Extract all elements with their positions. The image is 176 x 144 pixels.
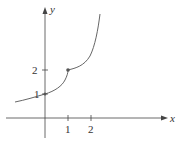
chart: x y 1 2 1 2 (0, 0, 176, 144)
curve-right-piece (68, 14, 100, 70)
point-0-1 (44, 93, 47, 96)
point-1-2 (66, 68, 70, 72)
x-axis-label: x (169, 112, 175, 124)
x-axis-arrow-icon (161, 116, 168, 121)
curve-left-piece (15, 70, 68, 102)
x-tick-label-1: 1 (65, 123, 71, 135)
y-tick-label-2: 2 (32, 64, 38, 76)
y-tick-label-1: 1 (34, 88, 40, 100)
x-tick-label-2: 2 (88, 123, 94, 135)
y-axis-label: y (49, 3, 55, 15)
y-axis-arrow-icon (43, 7, 48, 14)
